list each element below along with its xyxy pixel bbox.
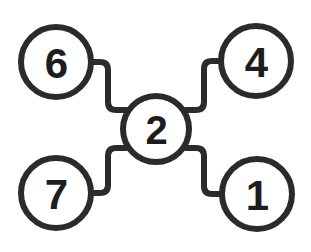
- edge-1-to-2: [186, 148, 224, 194]
- edge-6-to-2: [89, 62, 126, 110]
- node-2-hub[interactable]: 2: [123, 96, 189, 162]
- node-1[interactable]: 1: [222, 159, 292, 229]
- node-4[interactable]: 4: [221, 26, 291, 96]
- node-6-label: 6: [45, 40, 67, 87]
- node-7[interactable]: 7: [21, 158, 91, 228]
- edge-7-to-2: [89, 148, 126, 193]
- node-6[interactable]: 6: [21, 27, 91, 97]
- edge-4-to-2: [186, 61, 223, 110]
- node-7-label: 7: [45, 171, 67, 218]
- node-4-label: 4: [245, 39, 269, 86]
- node-1-label: 1: [246, 172, 269, 219]
- node-link-diagram: 6 4 2 7 1: [0, 0, 311, 252]
- diagram-canvas: 6 4 2 7 1: [0, 0, 311, 252]
- node-2-label: 2: [145, 108, 166, 152]
